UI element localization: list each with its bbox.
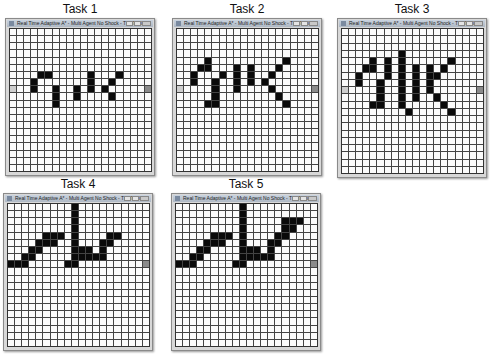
obstacle-cell[interactable]	[248, 79, 254, 85]
grid-cell[interactable]	[107, 333, 113, 339]
grid-cell[interactable]	[211, 261, 217, 267]
grid-cell[interactable]	[304, 304, 310, 310]
grid-cell[interactable]	[254, 218, 260, 224]
grid-cell[interactable]	[268, 233, 274, 239]
grid-cell[interactable]	[420, 109, 426, 115]
grid-cell[interactable]	[392, 80, 398, 86]
grid-cell[interactable]	[241, 136, 247, 142]
grid-cell[interactable]	[269, 136, 275, 142]
grid-cell[interactable]	[15, 225, 21, 231]
grid-cell[interactable]	[116, 50, 122, 56]
grid-cell[interactable]	[406, 160, 412, 166]
grid-cell[interactable]	[191, 50, 197, 56]
grid-cell[interactable]	[241, 143, 247, 149]
grid-cell[interactable]	[67, 165, 73, 171]
grid-cell[interactable]	[342, 102, 348, 108]
grid-cell[interactable]	[305, 158, 311, 164]
grid-cell[interactable]	[109, 86, 115, 92]
grid-cell[interactable]	[268, 297, 274, 303]
grid-cell[interactable]	[220, 79, 226, 85]
grid-cell[interactable]	[60, 43, 66, 49]
grid-cell[interactable]	[176, 311, 182, 317]
grid-cell[interactable]	[305, 129, 311, 135]
grid-cell[interactable]	[22, 333, 28, 339]
grid-cell[interactable]	[212, 65, 218, 71]
grid-cell[interactable]	[51, 261, 57, 267]
grid-cell[interactable]	[53, 158, 59, 164]
grid-cell[interactable]	[67, 136, 73, 142]
grid-cell[interactable]	[51, 268, 57, 274]
grid-cell[interactable]	[15, 218, 21, 224]
grid-cell[interactable]	[227, 143, 233, 149]
grid-cell[interactable]	[88, 108, 94, 114]
window-titlebar[interactable]: Real Time Adaptive A* - Multi Agent No S…	[5, 195, 151, 202]
grid-cell[interactable]	[131, 101, 137, 107]
grid-cell[interactable]	[198, 58, 204, 64]
grid-cell[interactable]	[291, 165, 297, 171]
grid-cell[interactable]	[312, 108, 318, 114]
grid-cell[interactable]	[427, 138, 433, 144]
grid-cell[interactable]	[81, 136, 87, 142]
grid-cell[interactable]	[441, 58, 447, 64]
obstacle-cell[interactable]	[211, 240, 217, 246]
grid-cell[interactable]	[17, 108, 23, 114]
grid-cell[interactable]	[51, 276, 57, 282]
grid-cell[interactable]	[399, 36, 405, 42]
grid-cell[interactable]	[138, 129, 144, 135]
grid-cell[interactable]	[191, 36, 197, 42]
grid-cell[interactable]	[8, 211, 14, 217]
grid-cell[interactable]	[291, 29, 297, 35]
obstacle-cell[interactable]	[276, 65, 282, 71]
grid-cell[interactable]	[276, 143, 282, 149]
grid-cell[interactable]	[261, 240, 267, 246]
obstacle-cell[interactable]	[385, 73, 391, 79]
grid-cell[interactable]	[136, 240, 142, 246]
grid-cell[interactable]	[477, 102, 483, 108]
obstacle-cell[interactable]	[399, 51, 405, 57]
obstacle-cell[interactable]	[234, 79, 240, 85]
grid-cell[interactable]	[74, 108, 80, 114]
grid-cell[interactable]	[448, 123, 454, 129]
obstacle-cell[interactable]	[36, 247, 42, 253]
grid-cell[interactable]	[363, 102, 369, 108]
grid-cell[interactable]	[377, 73, 383, 79]
grid-cell[interactable]	[72, 297, 78, 303]
grid-cell[interactable]	[145, 108, 151, 114]
grid-cell[interactable]	[282, 304, 288, 310]
grid-cell[interactable]	[456, 138, 462, 144]
grid-cell[interactable]	[198, 29, 204, 35]
grid-cell[interactable]	[72, 304, 78, 310]
grid-cell[interactable]	[74, 115, 80, 121]
obstacle-cell[interactable]	[114, 233, 120, 239]
grid-cell[interactable]	[65, 311, 71, 317]
grid-cell[interactable]	[220, 93, 226, 99]
grid-cell[interactable]	[184, 115, 190, 121]
grid-cell[interactable]	[29, 333, 35, 339]
grid-cell[interactable]	[72, 268, 78, 274]
grid-cell[interactable]	[248, 101, 254, 107]
grid-cell[interactable]	[283, 108, 289, 114]
grid-cell[interactable]	[86, 340, 92, 346]
grid-cell[interactable]	[67, 29, 73, 35]
grid-cell[interactable]	[413, 36, 419, 42]
grid-cell[interactable]	[95, 86, 101, 92]
grid-cell[interactable]	[74, 151, 80, 157]
grid-cell[interactable]	[385, 167, 391, 173]
grid-cell[interactable]	[17, 72, 23, 78]
obstacle-cell[interactable]	[107, 240, 113, 246]
grid-cell[interactable]	[204, 333, 210, 339]
grid-cell[interactable]	[248, 36, 254, 42]
grid-cell[interactable]	[67, 65, 73, 71]
grid-cell[interactable]	[342, 145, 348, 151]
obstacle-cell[interactable]	[190, 254, 196, 260]
grid-cell[interactable]	[43, 283, 49, 289]
grid-cell[interactable]	[275, 254, 281, 260]
grid-cell[interactable]	[143, 204, 149, 210]
grid-cell[interactable]	[86, 304, 92, 310]
grid-cell[interactable]	[290, 268, 296, 274]
grid-cell[interactable]	[204, 290, 210, 296]
close-button[interactable]	[140, 196, 149, 201]
grid-cell[interactable]	[177, 165, 183, 171]
grid-cell[interactable]	[184, 29, 190, 35]
grid-cell[interactable]	[220, 58, 226, 64]
